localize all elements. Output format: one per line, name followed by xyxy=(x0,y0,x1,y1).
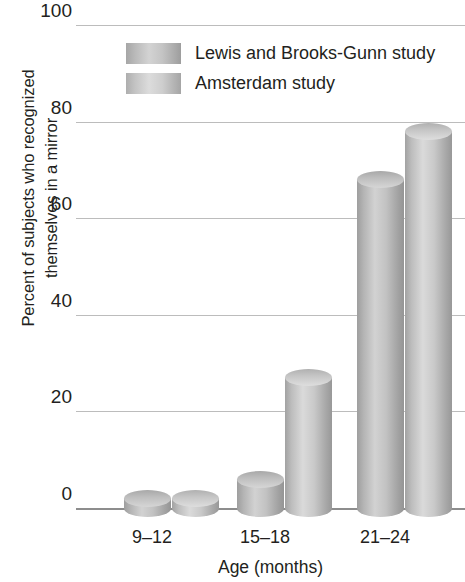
bar xyxy=(237,471,284,508)
y-tick-label-80: 80 xyxy=(26,98,72,117)
bar xyxy=(357,171,404,508)
bar-chart: Percent of subjects who recognized thems… xyxy=(0,0,465,582)
bar-body xyxy=(357,180,404,508)
y-tick-label-60: 60 xyxy=(26,194,72,213)
y-tick-label-0: 0 xyxy=(26,484,72,503)
legend-item: Lewis and Brooks-Gunn study xyxy=(126,38,456,68)
bar-body xyxy=(405,131,452,508)
bar-body xyxy=(285,378,332,508)
legend-label: Amsterdam study xyxy=(195,73,335,93)
x-axis-title: Age (months) xyxy=(76,558,465,576)
bar-cap-ellipse xyxy=(124,490,171,507)
bar-base-ellipse xyxy=(357,500,404,517)
bar xyxy=(124,490,171,508)
legend-swatch-icon xyxy=(126,43,181,64)
chart-legend: Lewis and Brooks-Gunn studyAmsterdam stu… xyxy=(126,38,456,98)
x-tick-label-1: 15–18 xyxy=(217,528,313,546)
bar-cap-ellipse xyxy=(285,369,332,386)
bar-cap-ellipse xyxy=(405,123,452,140)
bar xyxy=(405,123,452,508)
bar-cap-ellipse xyxy=(357,171,404,188)
legend-item: Amsterdam study xyxy=(126,68,456,98)
x-tick-label-0: 9–12 xyxy=(104,528,200,546)
bar-base-ellipse xyxy=(285,500,332,517)
y-tick-label-100: 100 xyxy=(26,1,72,20)
bar-cap-ellipse xyxy=(172,490,219,507)
legend-swatch-icon xyxy=(126,73,181,94)
x-tick-label-2: 21–24 xyxy=(337,528,433,546)
bar-cap-ellipse xyxy=(237,471,284,488)
y-tick-label-20: 20 xyxy=(26,387,72,406)
bar xyxy=(172,490,219,508)
bar xyxy=(285,369,332,508)
gridline-100 xyxy=(76,25,465,26)
bar-base-ellipse xyxy=(405,500,452,517)
legend-label: Lewis and Brooks-Gunn study xyxy=(195,43,435,63)
y-axis-tick-labels: 020406080100 xyxy=(22,0,72,582)
bar-base-ellipse xyxy=(237,500,284,517)
y-tick-label-40: 40 xyxy=(26,291,72,310)
